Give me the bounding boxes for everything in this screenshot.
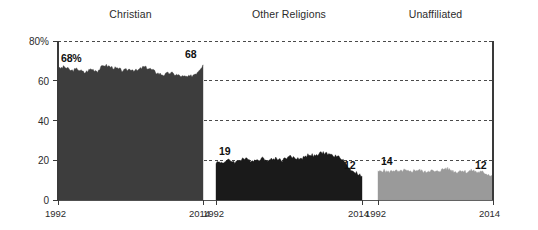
series-start-value-label: 68% [61, 52, 81, 64]
y-axis-tick-label: 0 [0, 195, 49, 206]
series-end-value-label: 12 [475, 159, 486, 171]
area-series-group [58, 64, 493, 200]
x-axis-tick-label-start: 1992 [365, 208, 386, 219]
x-axis-tick-label-start: 1992 [203, 208, 224, 219]
panel-title-other-religions: Other Religions [252, 8, 326, 20]
series-start-value-label: 19 [219, 145, 230, 157]
panel-title-unaffiliated: Unaffiliated [409, 8, 463, 20]
y-axis-tick-label: 40 [0, 115, 49, 126]
area-series-unaffiliated [378, 167, 493, 200]
area-series-other-religions [216, 152, 362, 200]
series-end-value-label: 68 [185, 48, 196, 60]
x-axis-tick-label-end: 2014 [479, 208, 500, 219]
chart-container: 80%6040200Christian68%6819922014Other Re… [0, 0, 538, 230]
series-start-value-label: 14 [381, 155, 392, 167]
panel-title-christian: Christian [109, 8, 151, 20]
y-axis-tick-label: 80% [0, 36, 49, 47]
y-axis-tick-label: 20 [0, 155, 49, 166]
chart-canvas [0, 0, 538, 230]
x-axis-tick-label-start: 1992 [45, 208, 66, 219]
series-end-value-label: 12 [344, 159, 355, 171]
y-axis-tick-label: 60 [0, 75, 49, 86]
area-series-christian [58, 64, 203, 200]
